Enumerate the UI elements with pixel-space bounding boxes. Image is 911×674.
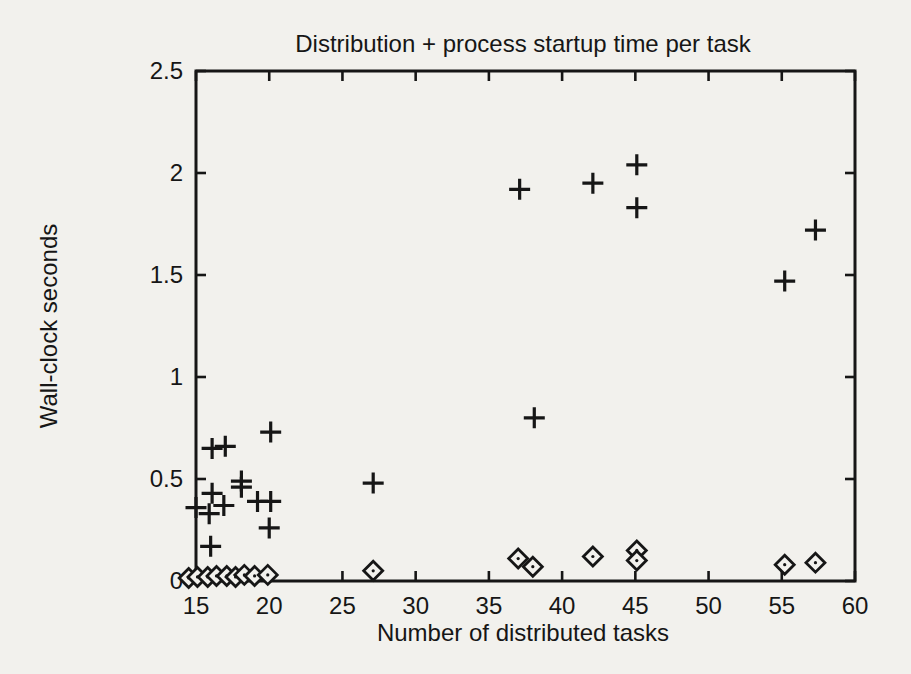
y-tick-label: 2 (170, 159, 183, 186)
plus-marker (260, 491, 281, 512)
plus-marker (202, 483, 223, 504)
x-tick-label: 15 (183, 592, 210, 619)
x-tick-label: 25 (329, 592, 356, 619)
plus-marker (774, 271, 795, 292)
y-tick-label: 0.5 (150, 465, 183, 492)
plus-marker (805, 220, 826, 241)
y-tick-label: 1.5 (150, 261, 183, 288)
diamond-marker-center-dot (783, 563, 786, 566)
diamond-marker-center-dot (591, 555, 594, 558)
plus-marker (259, 517, 280, 538)
plus-marker (260, 422, 281, 443)
tick-labels: 1520253035404550556000.511.522.5 (150, 57, 869, 619)
x-tick-label: 20 (256, 592, 283, 619)
plus-marker (202, 438, 223, 459)
axis-ticks (196, 71, 855, 581)
plus-marker (509, 179, 530, 200)
x-tick-label: 35 (476, 592, 503, 619)
plus-marker (626, 154, 647, 175)
data-markers (179, 154, 826, 587)
plot-frame (196, 71, 855, 581)
diamond-marker-center-dot (531, 565, 534, 568)
plus-marker (200, 536, 221, 557)
plus-marker (582, 173, 603, 194)
diamond-marker-center-dot (814, 561, 817, 564)
chart-title: Distribution + process startup time per … (295, 30, 752, 57)
x-tick-label: 60 (842, 592, 869, 619)
plus-marker (524, 407, 545, 428)
x-tick-label: 55 (768, 592, 795, 619)
diamond-marker-center-dot (266, 573, 269, 576)
plus-marker (363, 473, 384, 494)
diamond-marker-center-dot (372, 569, 375, 572)
scatter-chart-page: Distribution + process startup time per … (0, 0, 911, 674)
x-tick-label: 30 (402, 592, 429, 619)
x-tick-label: 45 (622, 592, 649, 619)
plus-marker (626, 197, 647, 218)
y-tick-label: 2.5 (150, 57, 183, 84)
x-tick-label: 50 (695, 592, 722, 619)
y-axis-label: Wall-clock seconds (35, 224, 62, 429)
diamond-marker-center-dot (635, 559, 638, 562)
diamond-marker-center-dot (517, 557, 520, 560)
x-tick-label: 40 (549, 592, 576, 619)
plot-border (196, 71, 855, 581)
plus-marker (215, 436, 236, 457)
scatter-chart: Distribution + process startup time per … (0, 0, 911, 674)
diamond-marker-center-dot (253, 574, 256, 577)
y-tick-label: 1 (170, 363, 183, 390)
x-axis-label: Number of distributed tasks (377, 619, 669, 646)
